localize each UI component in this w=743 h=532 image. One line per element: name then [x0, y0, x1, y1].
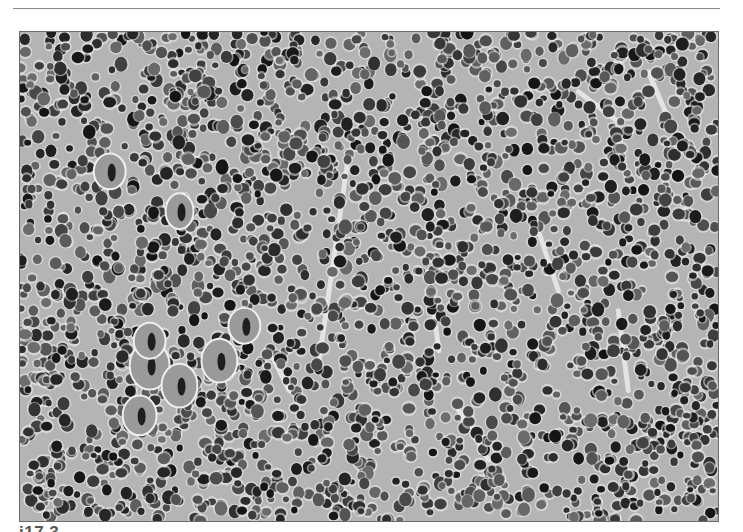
- cell-nucleus: [494, 494, 500, 500]
- cell-nucleus: [388, 172, 401, 184]
- cell-nucleus: [374, 448, 380, 454]
- cell-nucleus: [290, 137, 303, 149]
- cell-nucleus: [630, 204, 643, 216]
- cell-nucleus: [546, 242, 552, 247]
- cell-nucleus: [514, 360, 521, 368]
- cell-nucleus: [702, 265, 714, 276]
- cell-nucleus: [378, 233, 385, 239]
- cell-nucleus: [418, 147, 425, 154]
- cell-nucleus: [331, 494, 339, 503]
- cell-nucleus: [215, 501, 228, 516]
- cell-nucleus: [316, 342, 329, 353]
- cell-nucleus: [509, 379, 518, 387]
- cell-nucleus: [486, 86, 492, 92]
- cell-nucleus: [384, 277, 392, 284]
- cell-nucleus: [59, 234, 71, 247]
- cell-nucleus: [495, 338, 508, 353]
- cell-nucleus: [687, 494, 695, 503]
- cell-nucleus: [297, 411, 305, 419]
- cell-nucleus: [99, 509, 111, 521]
- cell-nucleus: [274, 276, 283, 284]
- cell-nucleus: [441, 317, 451, 327]
- cell-nucleus: [705, 463, 715, 473]
- cell-nucleus: [453, 293, 463, 301]
- cell-nucleus: [586, 452, 597, 465]
- cell-nucleus: [578, 36, 584, 43]
- cell-nucleus: [82, 271, 93, 283]
- cell-nucleus: [397, 114, 408, 126]
- cell-nucleus: [640, 262, 648, 269]
- cell-nucleus: [480, 164, 487, 170]
- cell-nucleus: [225, 449, 235, 457]
- cell-nucleus: [194, 272, 203, 282]
- cell-nucleus: [404, 274, 413, 284]
- cell-nucleus: [634, 118, 646, 130]
- cell-nucleus: [648, 381, 654, 387]
- cell-nucleus: [596, 391, 607, 401]
- cell-nucleus: [619, 457, 628, 466]
- cell-nucleus: [301, 270, 310, 280]
- cell-nucleus: [27, 471, 34, 477]
- cell-nucleus: [534, 306, 541, 313]
- cell-nucleus: [178, 246, 186, 254]
- cell-nucleus: [305, 68, 318, 81]
- cell-nucleus: [463, 406, 473, 417]
- cell-nucleus: [673, 209, 685, 220]
- cell-nucleus: [88, 389, 96, 398]
- cell-nucleus: [651, 67, 663, 78]
- cell-nucleus: [334, 255, 346, 267]
- cell-nucleus: [458, 262, 466, 270]
- cell-nucleus: [272, 470, 282, 478]
- cell-nucleus: [168, 59, 179, 68]
- cell-nucleus: [365, 361, 375, 369]
- cell-nucleus: [81, 394, 87, 400]
- cell-nucleus: [377, 218, 385, 227]
- cell-nucleus: [24, 319, 32, 326]
- cell-nucleus: [510, 209, 523, 223]
- cell-nucleus: [164, 280, 171, 287]
- cell-nucleus: [192, 470, 199, 477]
- cell-nucleus: [619, 238, 626, 246]
- cell-nucleus: [425, 348, 434, 356]
- cell-nucleus: [620, 334, 631, 345]
- cell-nucleus: [577, 356, 586, 365]
- cell-nucleus: [529, 412, 541, 424]
- cell-nucleus: [569, 427, 576, 433]
- cell-nucleus: [680, 383, 691, 392]
- cell-nucleus: [692, 169, 704, 179]
- cell-nucleus: [275, 120, 282, 126]
- cell-nucleus: [401, 192, 411, 201]
- cell-nucleus: [339, 355, 351, 367]
- cell-nucleus: [462, 495, 473, 508]
- cell-nucleus: [562, 489, 570, 497]
- cell-nucleus: [547, 32, 556, 40]
- cell-nucleus: [527, 468, 538, 478]
- cell-nucleus: [578, 476, 585, 484]
- cell-nucleus: [670, 291, 677, 298]
- cell-nucleus: [28, 275, 36, 282]
- cell-nucleus: [566, 44, 579, 57]
- cell-nucleus: [138, 159, 146, 167]
- cell-nucleus: [508, 60, 517, 69]
- cell-nucleus: [406, 430, 413, 437]
- cell-nucleus: [605, 180, 617, 193]
- cell-nucleus: [185, 168, 197, 178]
- megakaryocyte-nucleus: [178, 203, 186, 221]
- cell-nucleus: [489, 387, 502, 401]
- cell-nucleus: [441, 438, 449, 446]
- cell-nucleus: [339, 219, 352, 234]
- cell-nucleus: [112, 252, 120, 261]
- cell-nucleus: [384, 358, 390, 363]
- cell-nucleus: [480, 35, 492, 46]
- cell-nucleus: [471, 302, 479, 310]
- cell-nucleus: [28, 403, 40, 417]
- cell-nucleus: [390, 318, 401, 330]
- cell-nucleus: [509, 349, 516, 355]
- cell-nucleus: [159, 118, 167, 126]
- cell-nucleus: [655, 51, 662, 58]
- cell-nucleus: [642, 85, 655, 97]
- cell-nucleus: [639, 153, 650, 166]
- cell-nucleus: [107, 362, 115, 371]
- cell-nucleus: [677, 451, 683, 458]
- cell-nucleus: [561, 311, 568, 319]
